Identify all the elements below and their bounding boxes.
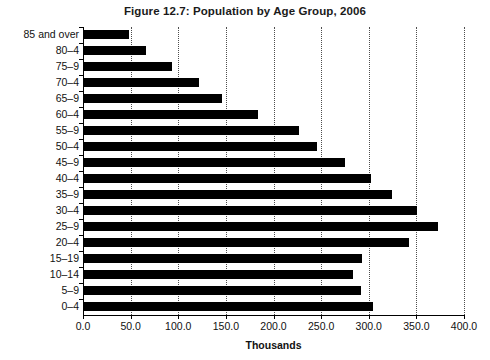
y-axis-tick-label: 25–9 [0, 220, 79, 232]
x-axis-tick-mark [369, 315, 370, 319]
bar[interactable] [83, 286, 361, 295]
bar-row[interactable] [83, 187, 464, 203]
bar[interactable] [83, 78, 199, 87]
x-axis-tick-mark [416, 315, 417, 319]
y-axis-tick-label: 70–4 [0, 76, 79, 88]
bar-row[interactable] [83, 75, 464, 91]
bar[interactable] [83, 110, 258, 119]
bar-row[interactable] [83, 139, 464, 155]
bar-row[interactable] [83, 43, 464, 59]
bar-row[interactable] [83, 155, 464, 171]
bar-row[interactable] [83, 59, 464, 75]
bar[interactable] [83, 62, 172, 71]
bar[interactable] [83, 190, 392, 199]
bar-row[interactable] [83, 283, 464, 299]
y-axis-tick-label: 55–9 [0, 124, 79, 136]
bar[interactable] [83, 46, 146, 55]
bar-row[interactable] [83, 123, 464, 139]
y-axis-tick-label: 60–4 [0, 108, 79, 120]
x-axis-tick-mark [83, 315, 84, 319]
bar-row[interactable] [83, 91, 464, 107]
x-axis: Thousands 0.050.0100.0150.0200.0250.0300… [0, 315, 490, 360]
bar[interactable] [83, 126, 299, 135]
bar[interactable] [83, 206, 417, 215]
bar[interactable] [83, 94, 222, 103]
x-axis-tick-mark [178, 315, 179, 319]
bar[interactable] [83, 142, 317, 151]
y-axis-tick-label: 5–9 [0, 284, 79, 296]
y-axis-tick-label: 45–9 [0, 156, 79, 168]
x-axis-tick-mark [321, 315, 322, 319]
bar-row[interactable] [83, 27, 464, 43]
bar[interactable] [83, 302, 373, 311]
x-axis-tick-mark [226, 315, 227, 319]
y-axis-tick-label: 40–4 [0, 172, 79, 184]
y-axis-labels: 85 and over80–475–970–465–960–455–950–44… [0, 27, 79, 315]
bar[interactable] [83, 158, 345, 167]
y-axis-tick-label: 15–19 [0, 252, 79, 264]
plot-area [83, 27, 464, 315]
x-axis-tick-mark [274, 315, 275, 319]
bar[interactable] [83, 30, 129, 39]
bar-row[interactable] [83, 107, 464, 123]
x-axis-tick-mark [464, 315, 465, 319]
page-title: Figure 12.7: Population by Age Group, 20… [0, 5, 490, 17]
bar[interactable] [83, 174, 371, 183]
bar-row[interactable] [83, 203, 464, 219]
y-axis-tick-label: 35–9 [0, 188, 79, 200]
y-axis-tick-label: 85 and over [0, 28, 79, 40]
bar-row[interactable] [83, 235, 464, 251]
y-axis-tick-label: 30–4 [0, 204, 79, 216]
bar[interactable] [83, 270, 353, 279]
bar-row[interactable] [83, 219, 464, 235]
figure-container: Figure 12.7: Population by Age Group, 20… [0, 0, 490, 360]
x-axis-tick-label: 400.0 [434, 320, 490, 332]
x-axis-tick-mark [131, 315, 132, 319]
y-axis-tick-label: 75–9 [0, 60, 79, 72]
bar[interactable] [83, 254, 362, 263]
bar[interactable] [83, 222, 438, 231]
bar-row[interactable] [83, 251, 464, 267]
bar-row[interactable] [83, 267, 464, 283]
y-axis-tick-label: 80–4 [0, 44, 79, 56]
y-axis-tick-label: 20–4 [0, 236, 79, 248]
y-axis-tick-label: 50–4 [0, 140, 79, 152]
bar-series [83, 27, 464, 315]
bar-row[interactable] [83, 299, 464, 315]
bar-row[interactable] [83, 171, 464, 187]
y-axis-tick-label: 65–9 [0, 92, 79, 104]
gridline-400.0 [464, 27, 465, 315]
bar[interactable] [83, 238, 409, 247]
y-axis-tick-label: 0–4 [0, 300, 79, 312]
y-axis-tick-label: 10–14 [0, 268, 79, 280]
x-axis-title: Thousands [83, 339, 464, 351]
